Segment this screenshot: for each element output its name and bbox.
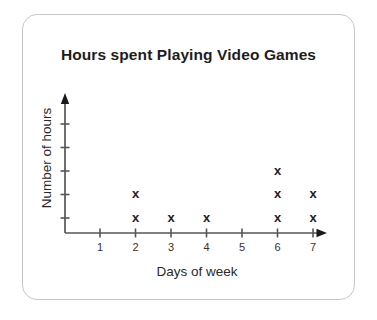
data-point-marker: x [274, 210, 282, 225]
data-point-marker: x [309, 186, 317, 201]
data-point-marker: x [309, 210, 317, 225]
x-axis-tick-label: 4 [203, 241, 209, 253]
data-point-marker: x [274, 163, 282, 178]
x-axis-tick-label: 7 [310, 241, 316, 253]
data-point-marker: x [203, 210, 211, 225]
x-axis-tick-label: 6 [274, 241, 280, 253]
data-point-marker: x [132, 186, 140, 201]
data-point-marker: x [132, 210, 140, 225]
page-background: Hours spent Playing Video Games 1234567x… [0, 0, 377, 320]
chart-canvas: 1234567xxxxxxxxx [23, 15, 356, 301]
x-axis-label: Days of week [156, 264, 237, 279]
data-point-marker: x [274, 186, 282, 201]
chart-card: Hours spent Playing Video Games 1234567x… [22, 14, 355, 300]
data-point-marker: x [167, 210, 175, 225]
x-axis-tick-label: 1 [97, 241, 103, 253]
y-axis-label: Number of hours [39, 108, 54, 209]
x-axis-tick-label: 5 [239, 241, 245, 253]
y-axis-arrow [61, 93, 69, 104]
x-axis-arrow [317, 229, 328, 237]
x-axis-tick-label: 2 [132, 241, 138, 253]
x-axis-tick-label: 3 [168, 241, 174, 253]
